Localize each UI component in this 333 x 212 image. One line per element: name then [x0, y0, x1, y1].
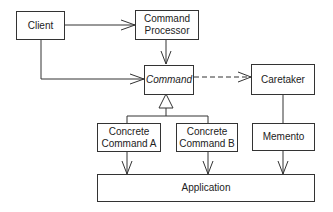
caretaker-node: Caretaker	[251, 64, 315, 95]
command-label: Command	[146, 74, 192, 86]
concrete-b-label-line1: Concrete	[179, 126, 235, 138]
concrete-a-label-line2: Command A	[101, 138, 156, 150]
concrete-b-label-line2: Command B	[179, 138, 235, 150]
command-processor-label-line1: Command	[144, 13, 190, 25]
application-node: Application	[97, 174, 315, 202]
command-node: Command	[144, 65, 194, 95]
concrete-a-label-line1: Concrete	[101, 126, 156, 138]
command-processor-node: Command Processor	[135, 10, 199, 40]
caretaker-label: Caretaker	[261, 74, 305, 86]
concrete-command-a-node: Concrete Command A	[97, 123, 161, 152]
memento-label: Memento	[263, 131, 305, 143]
concrete-command-b-node: Concrete Command B	[176, 123, 238, 152]
command-processor-label-line2: Processor	[144, 25, 190, 37]
client-label: Client	[28, 20, 54, 32]
client-node: Client	[16, 11, 65, 40]
application-label: Application	[182, 182, 231, 194]
memento-node: Memento	[252, 123, 315, 151]
